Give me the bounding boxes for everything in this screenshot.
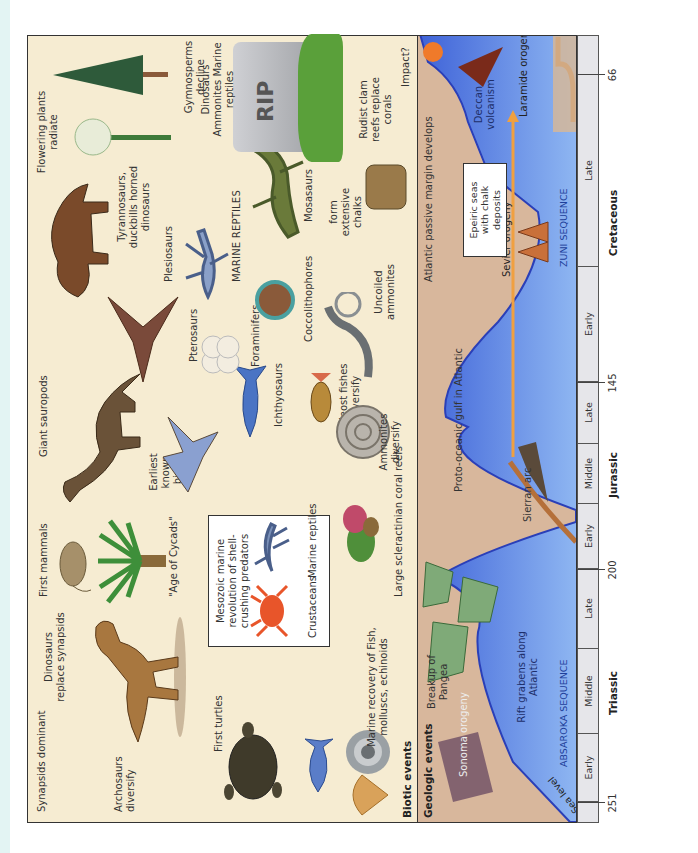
tick-200 xyxy=(577,569,605,570)
giant-sauropods-label: Giant sauropods xyxy=(38,375,50,457)
period-cretaceous: Cretaceous xyxy=(607,190,619,256)
coccolithophore-illustration-icon xyxy=(253,277,298,322)
uncoiled-ammonites-label: Uncoiled ammonites xyxy=(373,262,397,322)
crustaceans-label: Crustaceans xyxy=(307,576,319,638)
geologic-events-panel: Geologic events Sea level Sonoma orogeny… xyxy=(418,35,577,823)
grass-icon xyxy=(298,34,343,162)
tick-label-145: 145 xyxy=(607,373,618,392)
laramide-orogeny-label: Laramide orogeny xyxy=(518,35,530,117)
coral-reef-illustration-icon xyxy=(333,497,383,567)
biotic-events-panel: Biotic events Synapsids dominant Archosa… xyxy=(27,35,418,823)
epoch-row: Early Middle Late Early Middle Late Earl… xyxy=(577,35,599,823)
scallop-shell-illustration-icon xyxy=(348,772,393,817)
tick-label-251: 251 xyxy=(607,793,618,812)
geologic-events-title: Geologic events xyxy=(422,723,434,818)
archaeopteryx-illustration-icon xyxy=(153,412,228,502)
page-margin-strip xyxy=(0,0,10,853)
marine-reptile-illustration-icon xyxy=(247,521,297,576)
tyrannosaurs-label: Tyrannosaurs, duckbills horned dinosaurs xyxy=(116,152,152,262)
deccan-volcanism-label: Deccan volcanism xyxy=(473,77,497,132)
period-triassic: Triassic xyxy=(607,671,619,715)
age-of-cycads-label: "Age of Cycads" xyxy=(168,516,180,597)
absaroka-sequence-label: ABSAROKA SEQUENCE xyxy=(558,660,569,767)
uncoiled-ammonite-illustration-icon xyxy=(318,292,378,382)
flowering-plant-illustration-icon xyxy=(73,112,173,162)
mosasaurs-label: Mosasaurs xyxy=(303,169,315,222)
cycad-illustration-icon xyxy=(98,517,168,607)
dinosaurs-replace-synapsids-label: Dinosaurs replace synapsids xyxy=(43,612,67,702)
rip-text: RIP xyxy=(253,81,278,122)
epoch-cretaceous-early: Early xyxy=(578,267,598,382)
geologic-time-axis: Early Middle Late Early Middle Late Earl… xyxy=(577,35,628,823)
epoch-cretaceous-late: Late xyxy=(578,74,598,267)
rudist-clam-illustration-icon xyxy=(358,157,413,217)
tyrannosaur-illustration-icon xyxy=(68,602,198,752)
plesiosaur-illustration-icon xyxy=(178,227,233,302)
epoch-jurassic-late: Late xyxy=(578,382,598,444)
tick-label-66: 66 xyxy=(607,69,618,82)
synapsids-dominant-label: Synapsids dominant xyxy=(36,710,48,812)
marine-reptiles-box-label: Marine reptiles xyxy=(307,503,319,578)
crab-illustration-icon xyxy=(247,583,297,638)
sauropod-illustration-icon xyxy=(50,372,150,512)
pterosaur-illustration-icon xyxy=(103,292,183,387)
conifer-illustration-icon xyxy=(53,52,173,97)
mesozoic-timeline-figure: Biotic events Synapsids dominant Archosa… xyxy=(27,35,628,823)
proto-oceanic-gulf-label: Proto-oceanic gulf in Atlantic xyxy=(453,348,465,492)
archosaurs-diversify-label: Archosaurs diversify xyxy=(113,752,137,812)
period-jurassic: Jurassic xyxy=(607,452,619,498)
tick-145 xyxy=(577,382,605,383)
flowering-plants-label: Flowering plants radiate xyxy=(36,87,60,177)
extinct-groups-label: Dinosaurs Ammonites Marine reptiles xyxy=(200,37,236,142)
marine-recovery-label: Marine recovery of Fish, molluscs, echin… xyxy=(366,627,390,747)
breakup-pangea-label: Breakup of Pangea xyxy=(426,652,450,712)
tick-label-200: 200 xyxy=(607,560,618,579)
coccolithophores-label: Coccolithophores xyxy=(303,256,315,342)
mammal-illustration-icon xyxy=(53,532,93,592)
sonoma-orogeny-label: Sonoma orogeny xyxy=(458,692,470,777)
epoch-jurassic-early: Early xyxy=(578,504,598,569)
epoch-triassic-middle: Middle xyxy=(578,649,598,734)
epoch-triassic-early: Early xyxy=(578,734,598,802)
biotic-events-title: Biotic events xyxy=(401,741,413,818)
epoch-triassic-late: Late xyxy=(578,569,598,649)
sierran-arc-label: Sierran arc xyxy=(522,468,534,523)
mmr-box-title: Mesozoic marine revolution of shell-crus… xyxy=(215,516,251,646)
foraminifer-illustration-icon xyxy=(198,332,243,377)
triceratops-illustration-icon xyxy=(33,182,113,302)
shark-illustration-icon xyxy=(293,737,343,797)
rip-tombstone-icon: RIP xyxy=(233,42,308,152)
epoch-jurassic-middle: Middle xyxy=(578,444,598,504)
atlantic-passive-margin-label: Atlantic passive margin develops xyxy=(423,116,435,282)
impact-label: Impact? xyxy=(400,47,412,87)
mesozoic-marine-revolution-box: Mesozoic marine revolution of shell-crus… xyxy=(208,515,330,647)
ichthyosaurs-label: Ichthyosaurs xyxy=(273,363,285,427)
epeiric-seas-box: Epeiric seas with chalk deposits xyxy=(463,163,507,257)
rudist-label: Rudist clam reefs replace corals xyxy=(358,67,394,152)
tick-66 xyxy=(577,74,605,75)
first-mammals-label: First mammals xyxy=(38,523,50,597)
plesiosaurs-label: Plesiosaurs xyxy=(163,226,175,282)
rift-grabens-label: Rift grabens along Atlantic xyxy=(516,627,540,727)
ammonites-diversify-label: Ammonites diversify xyxy=(378,407,402,477)
tick-251 xyxy=(577,802,605,803)
turtle-illustration-icon xyxy=(213,722,293,812)
zuni-sequence-label: ZUNI SEQUENCE xyxy=(558,188,569,267)
